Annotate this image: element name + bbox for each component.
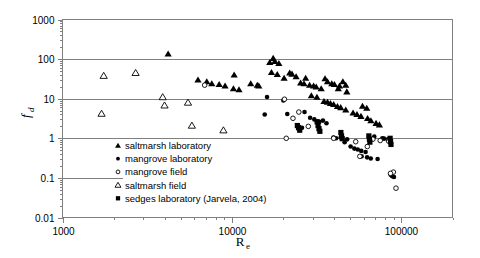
data-point-open-triangle	[161, 102, 168, 108]
data-point-open-circle	[282, 97, 287, 102]
scatter-plot-figure: 0.010.11101001000 100010000100000 saltma…	[0, 0, 480, 258]
series-saltmarsh-laboratory	[165, 51, 383, 128]
legend-label: mangrove laboratory	[125, 153, 212, 164]
data-point-filled-triangle	[302, 75, 309, 81]
x-axis-title: R e	[236, 234, 250, 251]
legend-marker-open-circle	[116, 170, 120, 174]
data-point-filled-triangle	[268, 69, 275, 75]
data-point-open-circle	[291, 116, 296, 121]
y-tick-label: 0.01	[35, 213, 55, 224]
data-point-filled-circle	[324, 121, 329, 126]
data-point-filled-circle	[345, 137, 350, 142]
data-point-open-circle	[388, 171, 393, 176]
y-axis-title-sub: d	[26, 107, 36, 112]
data-point-filled-square	[297, 128, 302, 133]
x-tick-label: 1000	[52, 226, 75, 237]
data-point-open-circle	[358, 154, 363, 159]
x-axis-title-main: R	[236, 234, 245, 249]
data-point-filled-circle	[392, 175, 397, 180]
data-point-open-circle	[202, 83, 207, 88]
data-point-filled-triangle	[221, 83, 228, 89]
data-point-open-triangle	[184, 99, 191, 105]
data-point-open-triangle	[188, 122, 195, 128]
data-point-filled-triangle	[235, 86, 242, 92]
data-point-filled-triangle	[308, 92, 315, 98]
data-point-filled-circle	[375, 157, 380, 162]
legend-marker-filled-circle	[116, 157, 120, 161]
data-point-open-triangle	[132, 69, 139, 75]
series-mangrove-laboratory	[262, 95, 396, 180]
data-point-filled-triangle	[313, 94, 320, 100]
chart-legend: saltmarsh laboratorymangrove laboratorym…	[115, 140, 266, 204]
data-point-filled-square	[317, 129, 322, 134]
y-tick-label: 1000	[32, 15, 55, 26]
x-axis-title-sub: e	[246, 241, 250, 251]
data-point-open-circle	[365, 144, 370, 149]
data-point-open-circle	[284, 136, 289, 141]
data-point-filled-square	[340, 136, 345, 141]
y-axis-title: f d	[18, 107, 36, 118]
data-point-open-triangle	[100, 72, 107, 78]
y-tick-label: 0.1	[41, 173, 55, 184]
x-tick-label: 100000	[385, 226, 419, 237]
y-tick-label: 1	[49, 133, 55, 144]
data-point-filled-square	[367, 140, 372, 145]
series-saltmarsh-field	[98, 69, 227, 132]
data-point-filled-triangle	[274, 71, 281, 77]
data-point-filled-circle	[262, 112, 267, 117]
data-point-filled-triangle	[216, 81, 223, 87]
legend-marker-filled-square	[116, 196, 120, 200]
legend-label: saltmarsh field	[125, 180, 186, 191]
data-point-filled-triangle	[281, 75, 288, 81]
data-point-open-circle	[378, 138, 383, 143]
data-point-open-circle	[394, 186, 399, 191]
data-point-open-circle	[306, 124, 311, 129]
legend-label: mangrove field	[125, 166, 187, 177]
legend-label: saltmarsh laboratory	[125, 140, 211, 151]
data-point-open-triangle	[98, 110, 105, 116]
data-point-filled-circle	[368, 156, 373, 161]
data-point-filled-square	[388, 142, 393, 147]
y-tick-label: 10	[43, 94, 55, 105]
data-point-filled-circle	[363, 150, 368, 155]
data-point-filled-triangle	[343, 88, 350, 94]
data-point-filled-triangle	[230, 85, 237, 91]
y-tick-label: 100	[38, 54, 55, 65]
data-point-filled-circle	[302, 110, 307, 115]
data-point-filled-circle	[285, 112, 290, 117]
data-point-filled-circle	[308, 115, 313, 120]
data-point-filled-circle	[265, 95, 270, 100]
data-point-open-triangle	[159, 94, 166, 100]
legend-label: sedges laboratory (Jarvela, 2004)	[125, 193, 267, 204]
data-point-filled-triangle	[165, 51, 172, 57]
data-point-open-circle	[353, 139, 358, 144]
data-point-open-circle	[331, 136, 336, 141]
legend-marker-filled-triangle	[115, 143, 121, 148]
data-point-filled-circle	[359, 149, 364, 154]
legend-marker-open-triangle	[115, 182, 121, 187]
x-axis: 100010000100000	[52, 218, 453, 237]
chart-canvas: 0.010.11101001000 100010000100000 saltma…	[0, 0, 480, 258]
data-point-open-triangle	[220, 127, 227, 133]
data-point-filled-triangle	[194, 76, 201, 82]
data-point-open-circle	[297, 110, 302, 115]
data-point-filled-triangle	[231, 71, 238, 77]
data-point-filled-triangle	[247, 80, 254, 86]
